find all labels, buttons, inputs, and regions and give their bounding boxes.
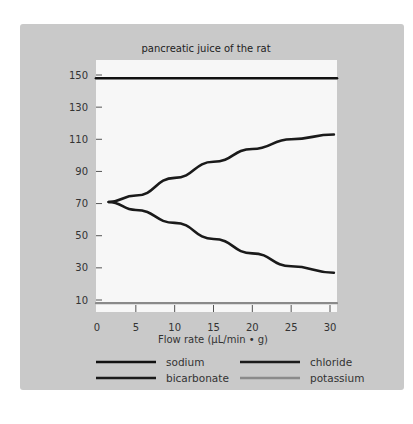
chart: pancreatic juice of the rat 103050709011…	[0, 0, 413, 424]
y-tick-label: 130	[69, 102, 88, 113]
y-tick-label: 90	[75, 166, 88, 177]
y-tick-label: 150	[69, 70, 88, 81]
legend-label-bicarbonate: bicarbonate	[166, 372, 229, 384]
x-tick-label: 10	[168, 322, 181, 333]
x-axis-label: Flow rate (µL/min • g)	[158, 334, 268, 345]
y-tick-label: 50	[75, 230, 88, 241]
x-tick-label: 0	[94, 322, 100, 333]
legend-label-chloride: chloride	[310, 356, 352, 368]
x-tick-label: 30	[324, 322, 337, 333]
legend-label-potassium: potassium	[310, 372, 364, 384]
x-tick-label: 25	[285, 322, 298, 333]
plot-area	[96, 60, 337, 312]
y-tick-label: 10	[75, 295, 88, 306]
x-tick-label: 5	[133, 322, 139, 333]
legend-label-sodium: sodium	[166, 356, 204, 368]
x-tick-label: 20	[246, 322, 259, 333]
y-tick-label: 70	[75, 198, 88, 209]
y-tick-label: 110	[69, 134, 88, 145]
legend: sodiumbicarbonatechloridepotassium	[96, 356, 364, 384]
x-tick-label: 15	[207, 322, 220, 333]
chart-title: pancreatic juice of the rat	[141, 43, 270, 54]
y-tick-label: 30	[75, 262, 88, 273]
